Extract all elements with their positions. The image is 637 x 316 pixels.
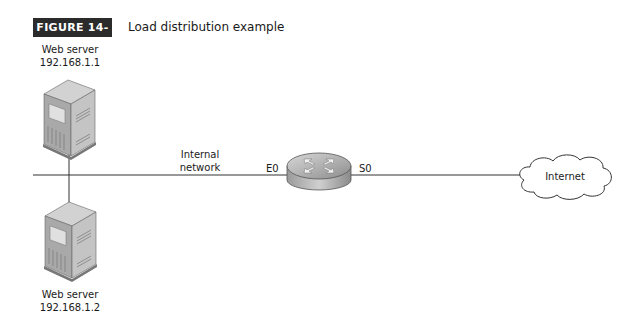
server2-ip: 192.168.1.2 (30, 301, 110, 314)
router-icon (287, 153, 351, 190)
server1-label: Web server 192.168.1.1 (30, 43, 110, 69)
router-interface-e0: E0 (266, 162, 279, 175)
server-icon (43, 80, 96, 160)
internet-label: Internet (540, 170, 590, 183)
server1-ip: 192.168.1.1 (30, 56, 110, 69)
internal-network-label-line1: Internal (170, 148, 230, 161)
server2-label: Web server 192.168.1.2 (30, 288, 110, 314)
server1-name: Web server (30, 43, 110, 56)
server2-name: Web server (30, 288, 110, 301)
server-icon (44, 202, 97, 282)
internal-network-label: Internal network (170, 148, 230, 174)
internal-network-label-line2: network (170, 161, 230, 174)
router-interface-s0: S0 (359, 162, 372, 175)
